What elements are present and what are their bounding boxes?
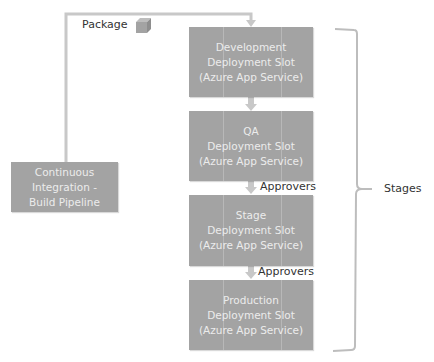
slot-name: Development: [216, 40, 287, 55]
stage-slot-box[interactable]: Stage Deployment Slot (Azure App Service…: [189, 195, 313, 266]
qa-slot-box[interactable]: QA Deployment Slot (Azure App Service): [189, 111, 313, 181]
ci-line2: Integration -: [32, 180, 97, 195]
stages-label: Stages: [384, 182, 422, 195]
ci-line1: Continuous: [35, 165, 94, 180]
slot-service: (Azure App Service): [199, 154, 303, 169]
slot-type: Deployment Slot: [207, 223, 295, 238]
slot-type: Deployment Slot: [207, 55, 295, 70]
slot-name: Production: [223, 293, 279, 308]
slot-service: (Azure App Service): [199, 238, 303, 253]
slot-service: (Azure App Service): [199, 70, 303, 85]
ci-build-pipeline-box[interactable]: Continuous Integration - Build Pipeline: [11, 162, 118, 212]
approvers-label-stage-prod: Approvers: [258, 265, 314, 278]
package-icon: [136, 18, 151, 33]
slot-name: Stage: [236, 208, 266, 223]
approvers-label-qa-stage: Approvers: [260, 180, 316, 193]
slot-type: Deployment Slot: [207, 139, 295, 154]
slot-type: Deployment Slot: [207, 308, 295, 323]
production-slot-box[interactable]: Production Deployment Slot (Azure App Se…: [189, 280, 313, 350]
slot-name: QA: [243, 124, 258, 139]
package-label: Package: [82, 18, 128, 31]
development-slot-box[interactable]: Development Deployment Slot (Azure App S…: [189, 27, 313, 97]
ci-line3: Build Pipeline: [29, 195, 100, 210]
slot-service: (Azure App Service): [199, 323, 303, 338]
